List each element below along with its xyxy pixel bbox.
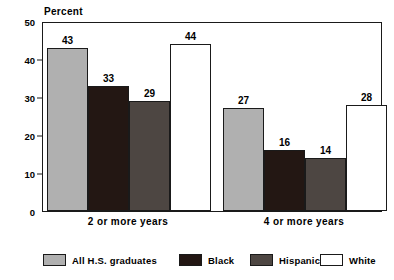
- y-axis-title: Percent: [44, 6, 83, 17]
- y-axis-tick-label: 0: [11, 207, 35, 218]
- plot-area: 4333294427161428: [42, 22, 382, 212]
- bar-chart: Percent 01020304050 4333294427161428 2 o…: [0, 0, 394, 280]
- legend-swatch-icon: [179, 254, 202, 266]
- legend-swatch-icon: [250, 254, 273, 266]
- bar: [88, 86, 129, 211]
- y-axis-tick-label: 50: [11, 17, 35, 28]
- bar-value-label: 16: [279, 137, 290, 148]
- legend-item: Hispanic: [250, 252, 320, 268]
- chart-legend: All H.S. graduatesBlackHispanicWhite: [0, 252, 394, 274]
- legend-label: Black: [208, 255, 234, 266]
- legend-label: All H.S. graduates: [72, 255, 157, 266]
- legend-item: White: [320, 252, 376, 268]
- bar: [47, 48, 88, 211]
- legend-item: Black: [179, 252, 234, 268]
- x-axis-category-label: 2 or more years: [88, 216, 169, 227]
- legend-label: Hispanic: [279, 255, 320, 266]
- bar: [305, 158, 346, 211]
- bar: [129, 101, 170, 211]
- x-axis-category-label: 4 or more years: [264, 216, 345, 227]
- bar-value-label: 28: [361, 92, 372, 103]
- legend-swatch-icon: [320, 254, 343, 266]
- legend-label: White: [349, 255, 376, 266]
- bar: [223, 108, 264, 211]
- bar: [264, 150, 305, 211]
- y-axis-tick-label: 40: [11, 55, 35, 66]
- bar-value-label: 33: [103, 73, 114, 84]
- bar-value-label: 44: [185, 31, 196, 42]
- y-axis-tick-label: 20: [11, 131, 35, 142]
- plot-inner: 4333294427161428: [43, 23, 381, 211]
- y-axis-tick-label: 10: [11, 169, 35, 180]
- bar-value-label: 14: [320, 145, 331, 156]
- bar: [346, 105, 387, 211]
- bar-value-label: 27: [238, 95, 249, 106]
- bar-value-label: 29: [144, 88, 155, 99]
- bar-value-label: 43: [62, 35, 73, 46]
- bar: [170, 44, 211, 211]
- y-axis-tick-label: 30: [11, 93, 35, 104]
- legend-item: All H.S. graduates: [43, 252, 157, 268]
- legend-swatch-icon: [43, 254, 66, 266]
